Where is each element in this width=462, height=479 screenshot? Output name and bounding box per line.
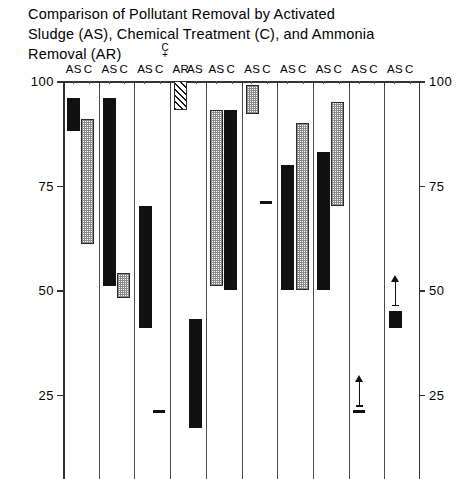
y-tick-label-left: 50 — [39, 283, 54, 298]
bar-dash-marker — [153, 410, 165, 413]
range-bar — [281, 165, 294, 290]
top-tick-minor — [144, 81, 145, 84]
top-tick-major — [206, 81, 207, 86]
y-tick-label-right: 50 — [429, 283, 444, 298]
y-tick-label-left: 100 — [31, 74, 54, 89]
top-tick-minor — [251, 81, 252, 84]
range-bar — [67, 98, 80, 131]
y-tick-label-right: 25 — [429, 387, 444, 402]
top-tick-minor — [89, 81, 90, 84]
top-tick-major — [170, 81, 171, 86]
column-header-c: C — [84, 63, 93, 75]
top-tick-minor — [374, 81, 375, 84]
top-tick-minor — [339, 81, 340, 84]
top-tick-minor — [124, 81, 125, 84]
column-header-as: AS — [101, 63, 117, 75]
range-bar — [317, 152, 330, 290]
top-tick-minor — [109, 81, 110, 84]
top-tick-major — [349, 81, 350, 86]
column-header-c: C — [369, 63, 378, 75]
top-tick-minor — [267, 81, 268, 84]
up-arrow-icon — [389, 275, 401, 309]
column-header-as: AS — [66, 63, 82, 75]
right-axis-line — [419, 81, 421, 479]
column-header-c: C — [405, 63, 414, 75]
column-header-c: C — [155, 63, 164, 75]
arrow-shaft — [395, 279, 396, 305]
range-bar — [389, 311, 402, 328]
top-tick-major — [313, 81, 314, 86]
top-tick-major — [277, 81, 278, 86]
y-tick-left — [57, 395, 63, 397]
top-tick-minor — [232, 81, 233, 84]
chart-title: Comparison of Pollutant Removal by Activ… — [28, 4, 448, 64]
range-bar — [189, 319, 202, 428]
group-separator — [242, 81, 243, 479]
range-bar — [81, 119, 94, 244]
column-header-c: C — [226, 63, 235, 75]
top-tick-major — [242, 81, 243, 86]
y-tick-left — [57, 290, 63, 292]
top-tick-minor — [216, 81, 217, 84]
group-separator — [206, 81, 207, 479]
range-bar — [117, 273, 130, 298]
range-bar — [103, 98, 116, 286]
column-header-as: AS — [387, 63, 403, 75]
y-tick-right — [419, 290, 425, 292]
column-header-as: AS — [209, 63, 225, 75]
top-tick-minor — [359, 81, 360, 84]
y-tick-label-right: 100 — [429, 74, 452, 89]
column-header-as: AS — [137, 63, 153, 75]
range-bar — [246, 85, 259, 114]
arrow-foot — [356, 405, 363, 406]
y-tick-right — [419, 186, 425, 188]
chart-figure: Comparison of Pollutant Removal by Activ… — [0, 0, 462, 479]
column-header-c: C — [119, 63, 128, 75]
column-header-c: C — [262, 63, 271, 75]
c-plus-ar-annotation: C + — [150, 44, 180, 59]
range-bar — [331, 102, 344, 207]
y-tick-label-right: 75 — [429, 178, 444, 193]
annotation-plus: + — [150, 51, 180, 59]
plot-area: 100100757550502525 — [63, 81, 420, 479]
column-header-as: AS — [244, 63, 260, 75]
column-header-as: AS — [316, 63, 332, 75]
top-tick-minor — [196, 81, 197, 84]
top-tick-minor — [303, 81, 304, 84]
arrow-foot — [392, 305, 399, 306]
bar-dash-marker — [353, 410, 365, 413]
range-bar — [224, 110, 237, 290]
top-tick-minor — [160, 81, 161, 84]
top-tick-major — [99, 81, 100, 86]
column-header-as: AS — [351, 63, 367, 75]
column-header-as: AS — [280, 63, 296, 75]
bar-dash-marker — [260, 201, 272, 204]
column-header-c: C — [334, 63, 343, 75]
column-header-as: AS — [187, 63, 203, 75]
up-arrow-icon — [353, 375, 365, 409]
range-bar — [210, 110, 223, 286]
top-tick-major — [384, 81, 385, 86]
group-separator — [99, 81, 100, 479]
group-separator — [349, 81, 350, 479]
y-tick-left — [57, 81, 63, 83]
y-tick-label-left: 75 — [39, 178, 54, 193]
y-tick-left — [57, 186, 63, 188]
y-tick-label-left: 25 — [39, 387, 54, 402]
left-axis-line — [63, 81, 65, 479]
top-tick-minor — [394, 81, 395, 84]
top-tick-minor — [287, 81, 288, 84]
y-tick-right — [419, 81, 425, 83]
top-tick-major — [63, 81, 64, 86]
group-separator — [384, 81, 385, 479]
group-separator — [170, 81, 171, 479]
arrow-shaft — [359, 379, 360, 405]
top-tick-minor — [410, 81, 411, 84]
top-tick-minor — [73, 81, 74, 84]
range-bar — [296, 123, 309, 290]
column-header-c: C — [298, 63, 307, 75]
top-tick-major — [134, 81, 135, 86]
group-separator — [134, 81, 135, 479]
group-separator — [277, 81, 278, 479]
range-bar — [174, 81, 187, 110]
